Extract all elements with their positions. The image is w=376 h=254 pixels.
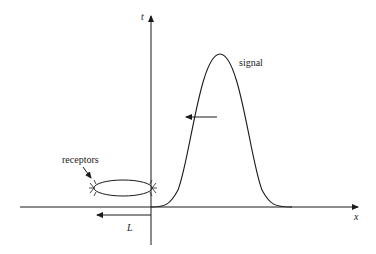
receptors-pointer-arrow-icon: [83, 167, 91, 178]
receptors-label: receptors: [62, 154, 99, 165]
signal-label: signal: [239, 57, 263, 68]
receptor-cell: [94, 180, 152, 196]
receptor-spikes-left-icon: [89, 180, 96, 196]
distance-L-label: L: [126, 222, 133, 233]
t-axis-label: t: [141, 11, 144, 22]
x-axis-label: x: [353, 211, 359, 222]
signal-curve: [151, 54, 292, 207]
diagram-canvas: t x signal receptors L: [0, 0, 376, 254]
